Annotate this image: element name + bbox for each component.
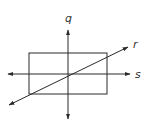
label-s: s [135, 68, 141, 81]
label-q: q [65, 12, 72, 25]
label-r: r [133, 38, 139, 51]
symmetry-diagram: q r s [0, 0, 149, 124]
